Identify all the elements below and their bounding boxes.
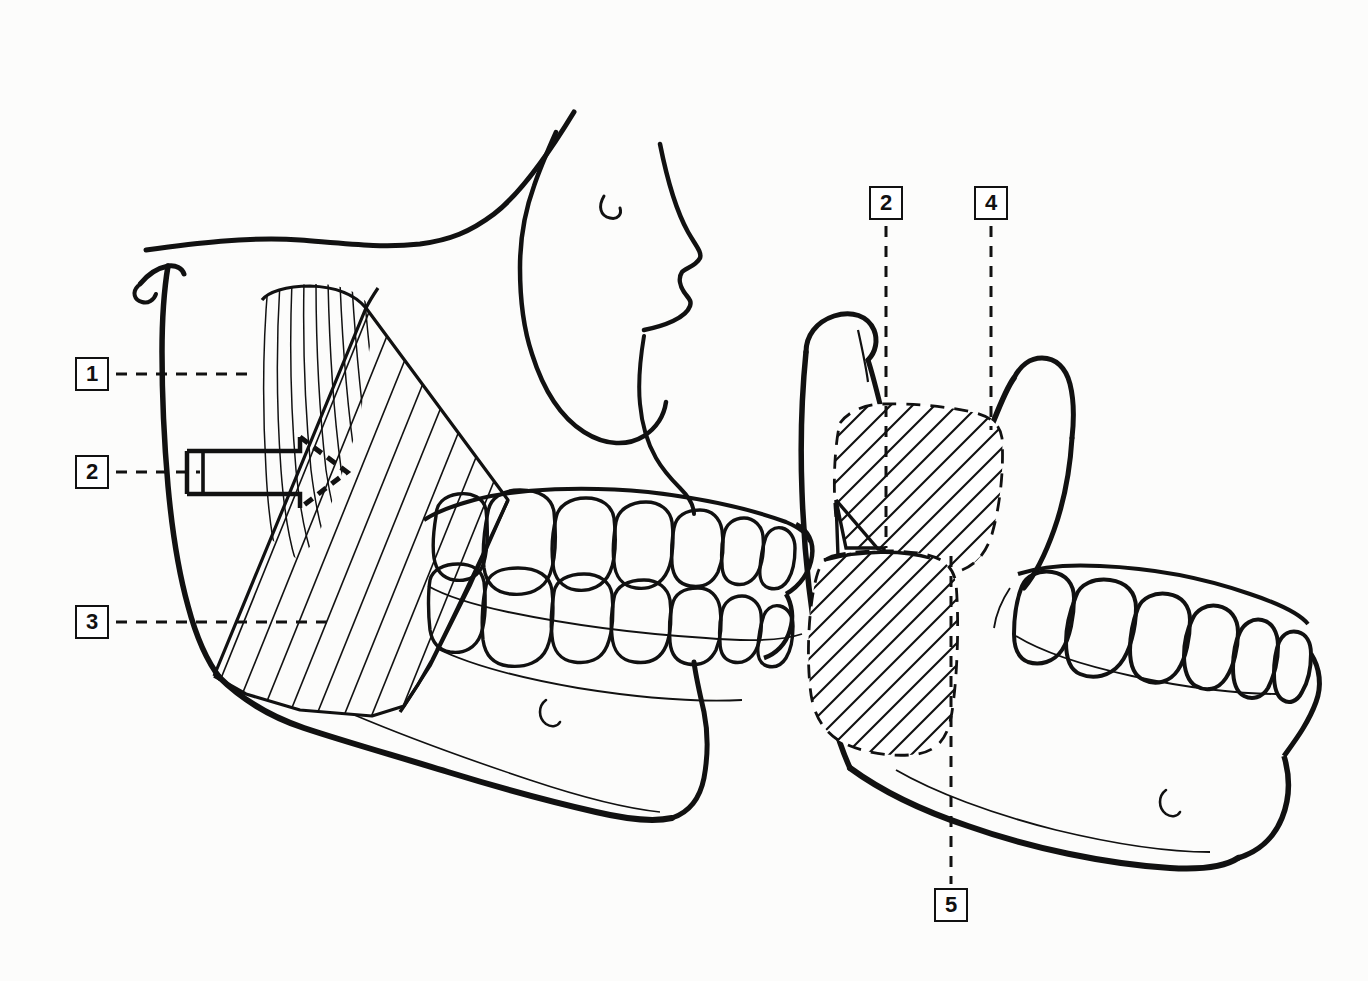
chin-symphysis-right — [1238, 756, 1288, 858]
condylar-process-head — [806, 314, 876, 360]
label-box-4[interactable]: 4 — [974, 186, 1008, 220]
lateral-skull-panel — [116, 112, 812, 820]
label-box-3[interactable]: 3 — [75, 605, 109, 639]
condyle-inner-line — [858, 330, 868, 382]
mandibular-teeth — [429, 564, 794, 667]
coronoid-process — [1014, 358, 1073, 438]
infraorbital-foramen-glyph — [601, 196, 621, 218]
mandible-panel — [740, 226, 1319, 884]
condyle-neck-notch — [135, 286, 156, 303]
retromolar-line — [994, 588, 1010, 628]
anatomical-illustration — [0, 0, 1368, 981]
chin-upper-right — [1284, 654, 1319, 756]
mandible-inferior-border — [218, 676, 672, 820]
label-box-1[interactable]: 1 — [75, 357, 109, 391]
nasal-profile — [644, 144, 700, 330]
posterior-mandible-contour — [764, 594, 792, 658]
mental-foramen-glyph-right — [1160, 790, 1180, 816]
label-box-2-right[interactable]: 2 — [869, 186, 903, 220]
zygomatic-arch-outline — [146, 112, 574, 250]
superficial-masseter-striations — [188, 280, 642, 800]
figure-canvas: 1 2 3 2 4 5 — [0, 0, 1368, 981]
masseter-deep-superficial-border — [214, 288, 378, 676]
oblique-line-mandible — [352, 714, 660, 812]
mandible-ramus-posterior-border — [162, 266, 220, 678]
mental-foramen-glyph — [540, 700, 560, 726]
frontal-orbit-profile — [520, 132, 666, 443]
chin-symphysis-outline — [672, 662, 707, 818]
label-box-5[interactable]: 5 — [934, 888, 968, 922]
mandible-inferior-border-right — [850, 768, 1238, 869]
label-box-2-left[interactable]: 2 — [75, 455, 109, 489]
condyle-head-outline — [140, 266, 184, 284]
maxilla-anterior-profile — [639, 336, 694, 514]
